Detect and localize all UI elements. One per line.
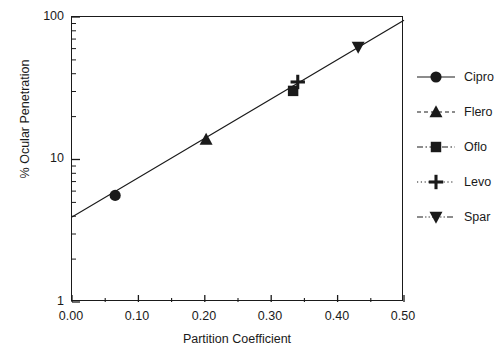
- y-axis-title: % Ocular Penetration: [18, 19, 32, 219]
- x-axis-title: Partition Coefficient: [71, 332, 403, 346]
- legend-item-spar[interactable]: Spar: [416, 202, 504, 232]
- legend-key-circle-icon: [416, 67, 456, 87]
- legend-label: Flero: [456, 105, 492, 119]
- x-tick-label-1: 0.10: [115, 309, 159, 323]
- legend-item-flero[interactable]: Flero: [416, 97, 504, 127]
- legend-item-levo[interactable]: Levo: [416, 167, 504, 197]
- legend-item-cipro[interactable]: Cipro: [416, 62, 504, 92]
- x-tick-label-3: 0.30: [248, 309, 292, 323]
- legend-key-triangle-down-icon: [416, 207, 456, 227]
- x-tick-label-2: 0.20: [182, 309, 226, 323]
- x-tick-label-0: 0.00: [49, 309, 93, 323]
- plot-canvas: [72, 17, 404, 302]
- x-tick-label-5: 0.50: [381, 309, 425, 323]
- legend: Cipro Flero Oflo Levo Spar: [416, 62, 504, 237]
- y-tick-label-1: 1: [24, 294, 64, 308]
- data-point-spar: [352, 42, 365, 54]
- legend-key-plus-icon: [416, 172, 456, 192]
- legend-key-square-icon: [416, 137, 456, 157]
- data-point-cipro: [110, 190, 121, 201]
- legend-label: Spar: [456, 210, 490, 224]
- x-tick-label-4: 0.40: [315, 309, 359, 323]
- legend-key-triangle-up-icon: [416, 102, 456, 122]
- legend-label: Levo: [456, 175, 491, 189]
- legend-item-oflo[interactable]: Oflo: [416, 132, 504, 162]
- legend-label: Cipro: [456, 70, 494, 84]
- trend-line: [72, 20, 404, 217]
- plot-area: [71, 16, 403, 301]
- chart-figure: 100 10 1 0.00 0.10 0.20 0.30 0.40 0.50 %…: [0, 0, 504, 358]
- legend-label: Oflo: [456, 140, 487, 154]
